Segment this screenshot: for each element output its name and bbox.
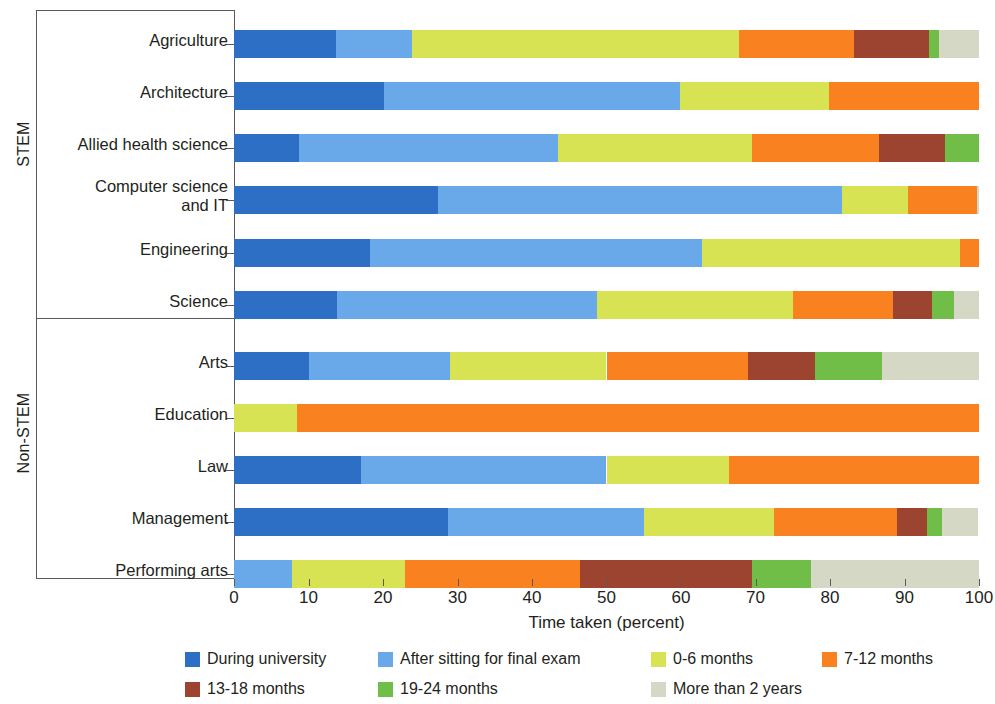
bar-segment[interactable] [960, 239, 979, 267]
bar-row[interactable] [234, 18, 979, 70]
bar-segment[interactable] [450, 352, 606, 380]
stacked-bar [234, 82, 979, 110]
bar-segment[interactable] [234, 134, 299, 162]
bar-segment[interactable] [942, 508, 978, 536]
bar-segment[interactable] [680, 82, 829, 110]
bar-segment[interactable] [234, 186, 438, 214]
bar-row[interactable] [234, 340, 979, 392]
bar-segment[interactable] [739, 30, 854, 58]
category-label-line: Performing arts [18, 561, 228, 580]
x-axis-tick [979, 579, 980, 586]
legend-item[interactable]: More than 2 years [651, 680, 802, 698]
legend-row-second: 13-18 months19-24 monthsMore than 2 year… [185, 680, 985, 704]
bar-segment[interactable] [234, 291, 337, 319]
bar-row[interactable] [234, 392, 979, 444]
bar-segment[interactable] [309, 352, 451, 380]
bar-row[interactable] [234, 444, 979, 496]
bar-segment[interactable] [597, 291, 793, 319]
legend-item[interactable]: 0-6 months [651, 650, 753, 668]
bar-segment[interactable] [842, 186, 908, 214]
bar-segment[interactable] [234, 508, 448, 536]
legend-label: During university [207, 650, 326, 668]
x-axis-tick-label: 60 [672, 588, 691, 608]
bar-row[interactable] [234, 496, 979, 548]
bar-segment[interactable] [882, 352, 979, 380]
legend-label: More than 2 years [673, 680, 802, 698]
bar-segment[interactable] [361, 456, 607, 484]
bar-segment[interactable] [412, 30, 739, 58]
legend-item[interactable]: During university [185, 650, 326, 668]
bar-segment[interactable] [234, 456, 361, 484]
bar-segment[interactable] [929, 30, 939, 58]
legend-swatch-icon [651, 682, 666, 697]
category-label-line: Law [18, 457, 228, 476]
bar-segment[interactable] [558, 134, 752, 162]
bar-segment[interactable] [299, 134, 558, 162]
bar-segment[interactable] [854, 30, 929, 58]
bar-segment[interactable] [607, 456, 730, 484]
x-axis-tick-label: 10 [299, 588, 318, 608]
bar-segment[interactable] [748, 352, 815, 380]
legend-item[interactable]: After sitting for final exam [378, 650, 581, 668]
bar-row[interactable] [234, 174, 979, 226]
category-label: Management [18, 509, 228, 528]
bar-segment[interactable] [815, 352, 882, 380]
bar-row[interactable] [234, 122, 979, 174]
bar-row[interactable] [234, 227, 979, 279]
bar-segment[interactable] [774, 508, 897, 536]
bar-segment[interactable] [829, 82, 979, 110]
bar-segment[interactable] [793, 291, 894, 319]
legend-swatch-icon [378, 652, 393, 667]
stacked-bar [234, 404, 979, 432]
bar-segment[interactable] [297, 404, 979, 432]
bar-segment[interactable] [234, 239, 370, 267]
bar-segment[interactable] [897, 508, 927, 536]
x-axis-tick [905, 579, 906, 586]
bar-segment[interactable] [337, 291, 597, 319]
bar-segment[interactable] [977, 186, 979, 214]
stacked-bar [234, 352, 979, 380]
bar-segment[interactable] [448, 508, 644, 536]
bar-segment[interactable] [908, 186, 977, 214]
stacked-bar [234, 508, 979, 536]
bar-segment[interactable] [702, 239, 960, 267]
bar-segment[interactable] [234, 30, 336, 58]
x-axis-tick [756, 579, 757, 586]
category-label: Architecture [18, 83, 228, 102]
bar-segment[interactable] [945, 134, 979, 162]
stacked-bar [234, 291, 979, 319]
bar-segment[interactable] [954, 291, 979, 319]
category-label: Performing arts [18, 561, 228, 580]
bar-segment[interactable] [607, 352, 749, 380]
bar-segment[interactable] [752, 134, 879, 162]
bar-row[interactable] [234, 279, 979, 331]
bar-segment[interactable] [438, 186, 842, 214]
x-axis-tick [383, 579, 384, 586]
legend-item[interactable]: 19-24 months [378, 680, 498, 698]
category-label: Allied health science [18, 135, 228, 154]
x-axis-tick-label: 20 [374, 588, 393, 608]
legend-swatch-icon [822, 652, 837, 667]
bar-segment[interactable] [927, 508, 942, 536]
bar-segment[interactable] [384, 82, 681, 110]
stacked-bar-chart: STEM Non-STEM AgricultureArchitectureAll… [0, 0, 995, 704]
bar-segment[interactable] [234, 82, 384, 110]
bar-segment[interactable] [932, 291, 954, 319]
bar-segment[interactable] [234, 352, 309, 380]
bar-segment[interactable] [893, 291, 932, 319]
bar-segment[interactable] [644, 508, 774, 536]
bar-segment[interactable] [939, 30, 979, 58]
legend-swatch-icon [378, 682, 393, 697]
stacked-bar [234, 456, 979, 484]
bar-segment[interactable] [879, 134, 945, 162]
bar-row[interactable] [234, 70, 979, 122]
x-axis-tick [532, 579, 533, 586]
x-axis-tick-label: 40 [523, 588, 542, 608]
legend-item[interactable]: 7-12 months [822, 650, 933, 668]
bar-segment[interactable] [370, 239, 702, 267]
bar-segment[interactable] [336, 30, 412, 58]
bar-segment[interactable] [234, 404, 297, 432]
legend-item[interactable]: 13-18 months [185, 680, 305, 698]
category-label-line: and IT [18, 196, 228, 215]
bar-segment[interactable] [729, 456, 979, 484]
